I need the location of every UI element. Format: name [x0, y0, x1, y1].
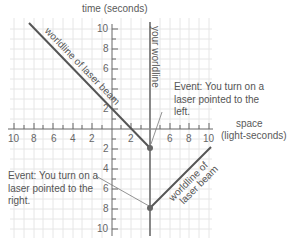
x-tick-neg4: 4 — [70, 134, 76, 144]
x-tick-neg6: 6 — [51, 134, 57, 144]
event-left-line2: laser pointed to the — [174, 94, 264, 107]
event-right-line1: Event: You turn on a — [8, 170, 98, 183]
y-tick-neg4: 4 — [103, 164, 109, 174]
y-tick-2: 2 — [103, 104, 109, 114]
x-tick-2: 2 — [128, 134, 134, 144]
time-axis-label: time (seconds) — [82, 3, 148, 15]
event-right-dot — [147, 205, 153, 211]
x-tick-10: 10 — [203, 134, 214, 144]
event-left-line1: Event: You turn on a — [174, 81, 264, 94]
x-tick-6: 6 — [167, 134, 173, 144]
y-tick-neg2: 2 — [103, 144, 109, 154]
y-tick-neg8: 8 — [103, 204, 109, 214]
y-tick-10: 10 — [97, 24, 108, 34]
event-left-dot — [147, 145, 153, 151]
x-tick-8: 8 — [186, 134, 192, 144]
y-tick-neg6: 6 — [103, 184, 109, 194]
y-tick-neg10: 10 — [97, 224, 108, 234]
space-axis-label-line1: space — [236, 118, 263, 130]
event-right-line2: laser pointed to the — [8, 183, 98, 196]
y-tick-8: 8 — [103, 44, 109, 54]
event-left-line3: left. — [174, 106, 264, 119]
event-right-note: Event: You turn on a laser pointed to th… — [8, 170, 98, 208]
space-axis — [8, 123, 213, 129]
event-left-note: Event: You turn on a laser pointed to th… — [174, 81, 264, 119]
time-axis — [112, 24, 118, 236]
space-axis-label-line2: (light-seconds) — [221, 130, 287, 142]
event-right-line3: right. — [8, 195, 98, 208]
your-worldline-label: your worldline — [150, 26, 160, 88]
x-tick-neg2: 2 — [89, 134, 95, 144]
y-tick-6: 6 — [103, 64, 109, 74]
x-tick-neg10: 10 — [8, 134, 19, 144]
x-tick-neg8: 8 — [31, 134, 37, 144]
